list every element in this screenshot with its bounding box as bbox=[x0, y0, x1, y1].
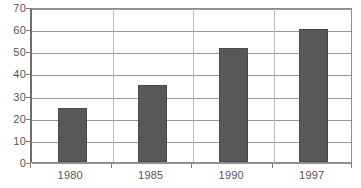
x-axis-tick-label: 1997 bbox=[272, 169, 353, 182]
y-axis-tick-marks bbox=[0, 8, 30, 163]
x-axis-tick-mark bbox=[191, 163, 192, 168]
bar-1990 bbox=[219, 48, 248, 162]
bar-1980 bbox=[58, 108, 87, 162]
x-axis-tick-mark bbox=[272, 163, 273, 168]
x-axis-tick-mark bbox=[351, 163, 352, 168]
plot-area bbox=[30, 8, 352, 163]
x-axis-tick-label: 1980 bbox=[30, 169, 111, 182]
bar-chart: 70 60 50 40 30 20 10 0 bbox=[0, 0, 361, 188]
x-axis-tick-label: 1985 bbox=[111, 169, 192, 182]
bar-1997 bbox=[299, 29, 328, 162]
bar-1985 bbox=[138, 85, 167, 163]
x-axis-tick-label: 1990 bbox=[191, 169, 272, 182]
x-axis-tick-mark bbox=[111, 163, 112, 168]
x-axis-labels: 1980 1985 1990 1997 bbox=[30, 169, 352, 185]
bars bbox=[32, 9, 351, 162]
x-axis-tick-mark bbox=[30, 163, 31, 168]
